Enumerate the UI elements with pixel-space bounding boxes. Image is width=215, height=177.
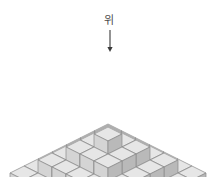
top-label: 위 — [104, 14, 114, 27]
pyramid-svg-canvas: 위 — [0, 0, 215, 177]
isometric-cube-pyramid-figure: 위 — [0, 0, 215, 177]
